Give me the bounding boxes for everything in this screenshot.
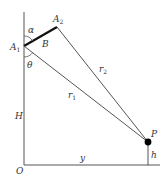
label-O: O	[16, 166, 24, 176]
label-r2: r2	[99, 64, 107, 75]
label-A1: A1	[9, 42, 20, 53]
angle-theta-arc	[24, 53, 33, 57]
angle-alpha-arc	[24, 36, 33, 41]
label-h: h	[151, 150, 157, 160]
label-alpha: α	[28, 25, 34, 35]
label-y: y	[79, 153, 86, 163]
label-B: B	[41, 39, 49, 49]
line-r1	[24, 46, 148, 142]
label-H: H	[14, 111, 23, 121]
geometry-diagram: A1 A2 α θ B H y h P O r1 r2	[0, 0, 165, 186]
line-r2	[57, 27, 148, 142]
label-r1: r1	[68, 90, 76, 101]
label-theta: θ	[27, 60, 33, 70]
label-A2: A2	[52, 14, 64, 25]
label-P: P	[150, 129, 158, 139]
point-P-marker	[145, 139, 152, 146]
